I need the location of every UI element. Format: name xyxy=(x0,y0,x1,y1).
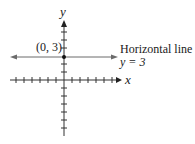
y-axis-arrow-icon xyxy=(61,20,67,27)
x-axis-arrow-icon xyxy=(116,77,122,83)
point-0-3 xyxy=(62,55,66,59)
coordinate-plane xyxy=(0,0,195,144)
line-right-arrow-icon xyxy=(111,55,118,60)
line-equation-label: y = 3 xyxy=(120,56,145,68)
line-left-arrow-icon xyxy=(10,55,17,60)
y-axis-label: y xyxy=(60,5,66,18)
x-axis-label: x xyxy=(125,73,131,86)
point-label: (0, 3) xyxy=(36,41,62,53)
line-title-label: Horizontal line xyxy=(120,43,192,55)
